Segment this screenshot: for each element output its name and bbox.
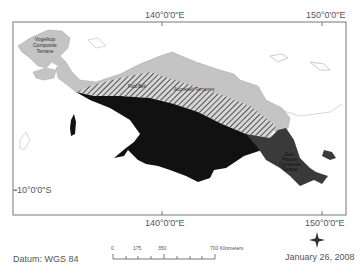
scale-label-700: 700 Kilometers bbox=[210, 245, 243, 251]
axis-label-top-140: 140°0'0"E bbox=[145, 10, 185, 20]
axis-label-top-150: 150°0'0"E bbox=[306, 10, 346, 20]
label-accreted-terranes: Accreted Terranes bbox=[174, 86, 214, 92]
scale-label-350: 350 bbox=[158, 245, 166, 251]
north-arrow-icon bbox=[309, 232, 325, 248]
scale-label-0: 0 bbox=[111, 245, 114, 251]
label-vogelkop-line3: Terrane bbox=[33, 48, 57, 54]
axis-label-bottom-150: 150°0'0"E bbox=[305, 218, 345, 228]
label-east-line4: Terrane bbox=[279, 167, 301, 172]
label-east-papuan: East Papuan Composite Terrane bbox=[279, 152, 301, 172]
label-fold-belt: Fold Belt bbox=[128, 84, 146, 89]
axis-label-left-10s: -10°0'0"S bbox=[14, 185, 52, 195]
datum-label: Datum: WGS 84 bbox=[13, 254, 79, 264]
scale-label-175: 175 bbox=[133, 245, 141, 251]
axis-label-bottom-140: 140°0'0"E bbox=[145, 218, 185, 228]
label-vogelkop: Vogelkop Composite Terrane bbox=[33, 36, 57, 54]
scale-bar bbox=[113, 254, 215, 259]
date-label: January 26, 2008 bbox=[285, 252, 355, 262]
